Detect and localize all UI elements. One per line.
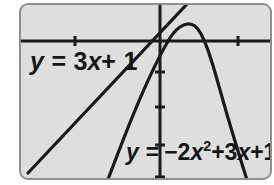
label-line-plus: + (101, 47, 116, 75)
label-parabola-y: y (126, 139, 139, 165)
label-parabola-sign: − (164, 139, 177, 165)
label-parabola-quadratic-var: x (190, 139, 203, 165)
equation-label-parabola: y=−2x2+3x+1 (126, 141, 272, 164)
label-parabola-linear-term: 3x (225, 139, 251, 165)
graph-figure: y=3x+1 y=−2x2+3x+1 (0, 0, 274, 185)
label-line-slope-term: 3x (74, 47, 102, 75)
label-parabola-quadratic-coefficient: 2 (178, 139, 191, 165)
equation-label-line: y=3x+1 (30, 49, 137, 74)
label-parabola-constant: 1 (264, 139, 272, 165)
label-line-equals: = (51, 47, 66, 75)
label-parabola-exponent: 2 (203, 138, 211, 154)
label-line-constant: 1 (123, 47, 137, 75)
label-parabola-plus-2: + (250, 139, 263, 165)
label-parabola-plus-1: + (211, 139, 224, 165)
graph-frame: y=3x+1 y=−2x2+3x+1 (19, 3, 272, 180)
label-line-y: y (30, 47, 44, 75)
label-parabola-equals: = (146, 139, 159, 165)
